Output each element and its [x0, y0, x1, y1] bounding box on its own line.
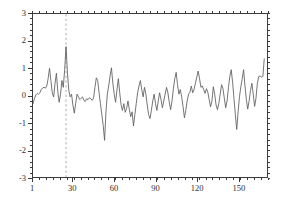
x-minor-tick	[101, 178, 102, 180]
x-minor-tick	[136, 178, 137, 180]
x-minor-tick	[74, 178, 75, 180]
x-minor-tick	[150, 178, 151, 180]
x-minor-tick	[192, 178, 193, 180]
y-minor-tick-right	[268, 123, 270, 124]
x-tick-label: 1	[19, 184, 45, 193]
x-minor-tick	[46, 178, 47, 180]
chart-figure: -3-2-10123 1306090120150	[0, 0, 284, 210]
plot-area-frame	[32, 13, 268, 178]
y-tick-label: 0	[4, 91, 26, 100]
x-minor-tick	[261, 178, 262, 180]
x-minor-tick	[254, 178, 255, 180]
y-minor-tick-right	[268, 46, 270, 47]
y-tick-label: -3	[4, 174, 26, 183]
x-minor-tick	[88, 178, 89, 180]
y-minor-tick-right	[268, 68, 270, 69]
x-minor-tick	[81, 178, 82, 180]
y-minor-tick-right	[268, 145, 270, 146]
y-minor-tick-right	[268, 30, 270, 31]
x-minor-tick	[240, 178, 241, 180]
y-minor-tick-right	[268, 41, 270, 42]
x-minor-tick	[233, 178, 234, 180]
x-minor-tick	[122, 178, 123, 180]
x-minor-tick	[171, 178, 172, 180]
x-minor-tick	[60, 178, 61, 180]
x-tick-label: 30	[59, 184, 85, 193]
x-tick-label: 90	[143, 184, 169, 193]
plot-svg	[33, 14, 267, 177]
x-minor-tick	[94, 178, 95, 180]
residual-series-line	[33, 47, 264, 141]
x-major-tick	[32, 178, 33, 182]
y-tick-label: 1	[4, 64, 26, 73]
y-minor-tick-right	[268, 79, 270, 80]
y-tick-label: 2	[4, 36, 26, 45]
x-minor-tick	[268, 178, 269, 180]
y-minor-tick-right	[268, 150, 270, 151]
y-minor-tick-right	[268, 178, 270, 179]
x-minor-tick	[185, 178, 186, 180]
y-tick-label: 3	[4, 9, 26, 18]
x-major-tick	[197, 178, 198, 182]
x-minor-tick	[206, 178, 207, 180]
x-minor-tick	[143, 178, 144, 180]
x-minor-tick	[108, 178, 109, 180]
x-minor-tick	[226, 178, 227, 180]
x-minor-tick	[199, 178, 200, 180]
x-minor-tick	[247, 178, 248, 180]
y-minor-tick-right	[268, 101, 270, 102]
x-major-tick	[114, 178, 115, 182]
x-major-tick	[72, 178, 73, 182]
y-minor-tick-right	[268, 24, 270, 25]
y-minor-tick-right	[268, 84, 270, 85]
y-minor-tick-right	[268, 173, 270, 174]
y-minor-tick-right	[268, 35, 270, 36]
x-minor-tick	[39, 178, 40, 180]
x-minor-tick	[164, 178, 165, 180]
y-minor-tick-right	[268, 51, 270, 52]
y-minor-tick-right	[268, 106, 270, 107]
x-minor-tick	[53, 178, 54, 180]
y-minor-tick-right	[268, 118, 270, 119]
x-major-tick	[156, 178, 157, 182]
x-minor-tick	[129, 178, 130, 180]
x-tick-label: 120	[184, 184, 210, 193]
x-minor-tick	[32, 178, 33, 180]
x-tick-label: 60	[101, 184, 127, 193]
x-minor-tick	[212, 178, 213, 180]
x-minor-tick	[178, 178, 179, 180]
y-tick-label: -1	[4, 119, 26, 128]
y-minor-tick-right	[268, 140, 270, 141]
y-minor-tick-right	[268, 13, 270, 14]
y-minor-tick-right	[268, 62, 270, 63]
x-minor-tick	[115, 178, 116, 180]
x-minor-tick	[219, 178, 220, 180]
y-minor-tick-right	[268, 90, 270, 91]
x-major-tick	[239, 178, 240, 182]
y-tick-label: -2	[4, 146, 26, 155]
y-minor-tick-right	[268, 129, 270, 130]
y-minor-tick-right	[268, 162, 270, 163]
y-minor-tick-right	[268, 156, 270, 157]
y-minor-tick-right	[268, 57, 270, 58]
y-minor-tick-right	[268, 167, 270, 168]
y-minor-tick-right	[268, 112, 270, 113]
y-minor-tick-right	[268, 18, 270, 19]
y-minor-tick-right	[268, 95, 270, 96]
y-minor-tick-right	[268, 134, 270, 135]
x-minor-tick	[157, 178, 158, 180]
x-tick-label: 150	[226, 184, 252, 193]
x-minor-tick	[67, 178, 68, 180]
y-minor-tick-right	[268, 73, 270, 74]
